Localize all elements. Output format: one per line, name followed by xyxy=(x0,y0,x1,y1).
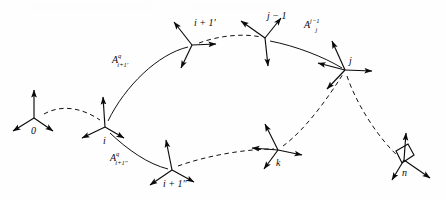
node-label-n: n xyxy=(402,168,407,178)
node-label-0: 0 xyxy=(31,126,36,136)
frame-j xyxy=(318,41,372,89)
matrix-subscript: i+1' xyxy=(117,61,128,68)
node-label-i: i xyxy=(103,136,106,146)
node-label-k: k xyxy=(276,158,280,168)
node-label-j-minus-1: j − 1 xyxy=(267,11,287,21)
edge-layer xyxy=(44,35,399,169)
matrix-label-a-j: Aj−1j xyxy=(304,19,321,33)
node-label-i-plus-1-double-prime: i + 1" xyxy=(163,179,187,189)
frame-n xyxy=(392,133,430,180)
kinematic-chain-diagram: 0 i i + 1' i + 1" j − 1 j k n Aqi+1' Aqi… xyxy=(0,0,446,200)
matrix-superscript: j−1 xyxy=(310,17,319,24)
frame-i-plus-1-prime xyxy=(174,22,216,68)
edge-ip1prime-to-jm1 xyxy=(199,35,261,43)
matrix-subscript: j xyxy=(316,26,318,33)
edge-0-to-i xyxy=(44,108,100,120)
edge-ip1dprime-to-k xyxy=(178,149,274,166)
frame-layer xyxy=(13,18,430,185)
edge-j-to-n xyxy=(347,76,399,157)
matrix-label-a-i-plus-1-double-prime: Aqi+1" xyxy=(110,152,132,166)
matrix-superscript: q xyxy=(118,52,121,59)
edge-jm1-to-j xyxy=(270,41,342,68)
matrix-superscript: q xyxy=(116,150,119,157)
matrix-subscript: i+1" xyxy=(115,159,127,166)
matrix-label-a-i-plus-1-prime: Aqi+1' xyxy=(112,54,132,68)
node-label-i-plus-1-prime: i + 1' xyxy=(194,18,216,28)
edge-k-to-j xyxy=(283,74,343,146)
node-label-j: j xyxy=(349,56,352,66)
diagram-canvas xyxy=(0,0,446,200)
